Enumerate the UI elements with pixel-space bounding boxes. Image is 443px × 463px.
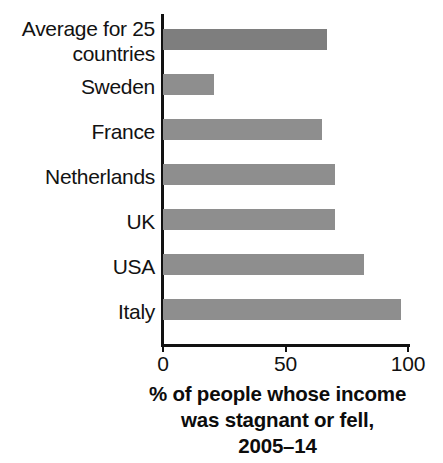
bar-france (163, 119, 322, 140)
x-axis-title: % of people whose income was stagnant or… (120, 381, 435, 459)
bar-usa (163, 254, 364, 275)
x-tick-mark-100 (407, 344, 409, 352)
x-tick-mark-0 (162, 344, 164, 352)
x-tick-mark-50 (285, 344, 287, 352)
x-axis-title-line-3: 2005–14 (120, 433, 435, 459)
y-axis-label-netherlands: Netherlands (0, 164, 155, 189)
bar-chart: Average for 25 countries Sweden France N… (0, 0, 443, 463)
x-tick-label-50: 50 (274, 352, 297, 376)
y-axis-label-italy: Italy (0, 299, 155, 324)
bar-uk (163, 209, 335, 230)
x-axis-title-line-1: % of people whose income (120, 381, 435, 407)
y-axis-label-france: France (0, 119, 155, 144)
y-axis-label-sweden: Sweden (0, 74, 155, 99)
y-axis-labels: Average for 25 countries Sweden France N… (0, 0, 155, 344)
bar-netherlands (163, 164, 335, 185)
x-tick-label-100: 100 (391, 352, 425, 376)
plot-area (163, 14, 408, 344)
x-axis-title-line-2: was stagnant or fell, (120, 407, 435, 433)
bar-sweden (163, 74, 214, 95)
y-axis-label-uk: UK (0, 209, 155, 234)
y-axis-label-usa: USA (0, 254, 155, 279)
x-tick-label-0: 0 (157, 352, 168, 376)
y-axis-label-average-for-25-countries: Average for 25 countries (0, 16, 155, 66)
bar-average-for-25-countries (163, 29, 327, 50)
bar-italy (163, 299, 401, 320)
